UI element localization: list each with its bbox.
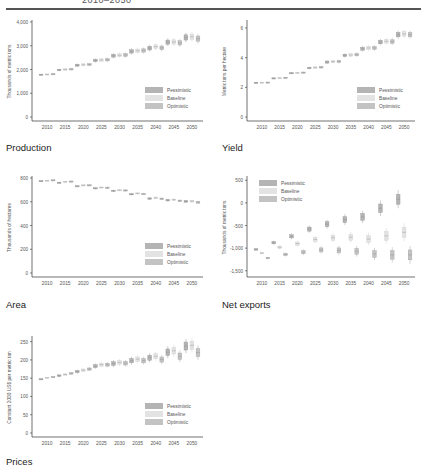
net-exports-y-tick-label: -1,000	[230, 246, 243, 251]
production-x-tick-label: 2025	[96, 125, 107, 130]
yield-chart: 0246Metric tons per hectare2010201520202…	[215, 14, 427, 134]
production-legend-swatch-pessimistic	[145, 87, 163, 93]
net-exports-legend-label-baseline: Baseline	[281, 189, 300, 194]
yield-legend-label-optimistic: Optimistic	[379, 104, 401, 109]
production-x-tick-label: 2015	[60, 125, 71, 130]
area-chart-svg: 0200400600800Thousands of hectares201020…	[0, 170, 215, 290]
yield-x-tick-label: 2035	[345, 125, 356, 130]
prices-y-axis-label: Constant 2000 US$ per metric ton	[7, 351, 12, 424]
yield-x-tick-label: 2050	[399, 125, 410, 130]
production-y-tick-label: 0	[25, 115, 28, 120]
production-x-tick-label: 2020	[78, 125, 89, 130]
yield-x-tick-label: 2025	[310, 125, 321, 130]
area-y-tick-label: 200	[20, 247, 28, 252]
prices-x-tick-label: 2010	[42, 441, 53, 446]
net-exports-legend-swatch-baseline	[259, 188, 277, 194]
prices-x-tick-label: 2030	[114, 441, 125, 446]
net-exports-y-tick-label: -1,500	[230, 269, 243, 274]
header-divider	[6, 8, 421, 10]
area-legend-label-optimistic: Optimistic	[167, 260, 189, 265]
yield-y-tick-label: 0	[240, 115, 243, 120]
yield-legend-swatch-pessimistic	[357, 87, 375, 93]
yield-x-tick-label: 2015	[274, 125, 285, 130]
production-y-tick-label: 2,000	[17, 68, 29, 73]
yield-caption: Yield	[222, 142, 243, 153]
production-x-tick-label: 2040	[150, 125, 161, 130]
area-legend-label-baseline: Baseline	[167, 252, 186, 257]
net-exports-chart-svg: -1,500-1,000-5000500Thousands of metric …	[215, 170, 427, 290]
yield-legend-label-pessimistic: Pessimistic	[379, 88, 404, 93]
net-exports-y-tick-label: 0	[240, 201, 243, 206]
yield-chart-svg: 0246Metric tons per hectare2010201520202…	[215, 14, 427, 134]
area-x-tick-label: 2020	[78, 281, 89, 286]
production-legend-swatch-optimistic	[145, 103, 163, 109]
production-x-tick-label: 2035	[132, 125, 143, 130]
area-y-tick-label: 0	[25, 271, 28, 276]
yield-legend-label-baseline: Baseline	[379, 96, 398, 101]
production-y-tick-label: 4,000	[17, 20, 29, 25]
prices-chart: 050100150200250Constant 2000 US$ per met…	[0, 330, 215, 450]
yield-y-axis-label: Metric tons per hectare	[222, 47, 227, 96]
production-legend-swatch-baseline	[145, 95, 163, 101]
area-legend-swatch-optimistic	[145, 259, 163, 265]
area-x-tick-label: 2035	[132, 281, 143, 286]
production-x-tick-label: 2010	[42, 125, 53, 130]
report-title: 2010–2050	[82, 0, 132, 5]
area-caption: Area	[6, 299, 26, 310]
prices-y-tick-label: 150	[20, 376, 28, 381]
net-exports-x-tick-label: 2015	[274, 281, 285, 286]
production-y-tick-label: 3,000	[17, 44, 29, 49]
prices-x-tick-label: 2045	[168, 441, 179, 446]
area-legend-label-pessimistic: Pessimistic	[167, 244, 192, 249]
net-exports-legend-swatch-pessimistic	[259, 180, 277, 186]
prices-y-tick-label: 250	[20, 340, 28, 345]
prices-y-tick-label: 200	[20, 358, 28, 363]
net-exports-x-tick-label: 2045	[381, 281, 392, 286]
yield-x-tick-label: 2045	[381, 125, 392, 130]
prices-legend-label-optimistic: Optimistic	[167, 420, 189, 425]
yield-x-tick-label: 2020	[292, 125, 303, 130]
area-legend-swatch-baseline	[145, 251, 163, 257]
net-exports-y-tick-label: -500	[234, 224, 244, 229]
prices-legend-label-pessimistic: Pessimistic	[167, 404, 192, 409]
net-exports-y-axis-label: Thousands of metric tons	[222, 200, 227, 254]
yield-y-tick-label: 4	[240, 56, 243, 61]
production-legend-label-baseline: Baseline	[167, 96, 186, 101]
yield-x-tick-label: 2010	[257, 125, 268, 130]
net-exports-x-tick-label: 2025	[310, 281, 321, 286]
prices-x-tick-label: 2025	[96, 441, 107, 446]
net-exports-x-tick-label: 2035	[345, 281, 356, 286]
prices-x-tick-label: 2050	[187, 441, 198, 446]
prices-legend-swatch-pessimistic	[145, 403, 163, 409]
net-exports-caption: Net exports	[222, 299, 271, 310]
area-y-axis-label: Thousands of hectares	[7, 203, 12, 252]
net-exports-chart: -1,500-1,000-5000500Thousands of metric …	[215, 170, 427, 290]
area-x-tick-label: 2050	[187, 281, 198, 286]
production-chart: 01,0002,0003,0004,000Thousands of metric…	[0, 14, 215, 134]
prices-y-tick-label: 0	[25, 431, 28, 436]
prices-x-tick-label: 2040	[150, 441, 161, 446]
production-x-tick-label: 2030	[114, 125, 125, 130]
prices-y-tick-label: 50	[23, 413, 29, 418]
net-exports-legend-swatch-optimistic	[259, 196, 277, 202]
yield-legend-swatch-baseline	[357, 95, 375, 101]
yield-y-tick-label: 2	[240, 85, 243, 90]
production-x-tick-label: 2045	[168, 125, 179, 130]
production-x-tick-label: 2050	[187, 125, 198, 130]
net-exports-x-tick-label: 2020	[292, 281, 303, 286]
yield-legend-swatch-optimistic	[357, 103, 375, 109]
production-y-tick-label: 1,000	[17, 91, 29, 96]
prices-chart-svg: 050100150200250Constant 2000 US$ per met…	[0, 330, 215, 450]
net-exports-legend-label-pessimistic: Pessimistic	[281, 181, 306, 186]
net-exports-x-tick-label: 2040	[363, 281, 374, 286]
production-y-axis-label: Thousands of metric tons	[7, 44, 12, 98]
area-y-tick-label: 400	[20, 224, 28, 229]
production-caption: Production	[6, 142, 51, 153]
yield-x-tick-label: 2030	[328, 125, 339, 130]
yield-y-tick-label: 6	[240, 26, 243, 31]
prices-legend-swatch-baseline	[145, 411, 163, 417]
area-x-tick-label: 2010	[42, 281, 53, 286]
area-x-tick-label: 2015	[60, 281, 71, 286]
net-exports-legend-label-optimistic: Optimistic	[281, 197, 303, 202]
production-legend-label-optimistic: Optimistic	[167, 104, 189, 109]
